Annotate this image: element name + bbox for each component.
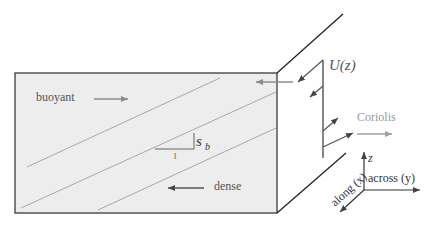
ocean-front-diagram: s b 1 buoyant dense U(z) Coriolis z acro…: [0, 0, 431, 225]
slope-subscript: b: [205, 141, 210, 152]
slope-symbol: s: [196, 133, 202, 149]
slope-run-label: 1: [173, 152, 177, 161]
profile-arrow-icon: [323, 133, 353, 147]
profile-arrow-icon: [298, 60, 323, 82]
profile-arrow-icon: [323, 118, 338, 131]
z-axis-label: z: [367, 151, 373, 165]
along-axis-label: along (x): [328, 170, 370, 210]
velocity-profile-label: U(z): [329, 57, 356, 74]
dense-label: dense: [214, 179, 241, 193]
across-axis-label: across (y): [368, 171, 415, 185]
velocity-profile: [298, 60, 353, 158]
buoyant-label: buoyant: [36, 90, 75, 104]
coriolis-label: Coriolis: [357, 110, 396, 124]
profile-arrow-icon: [310, 86, 323, 97]
